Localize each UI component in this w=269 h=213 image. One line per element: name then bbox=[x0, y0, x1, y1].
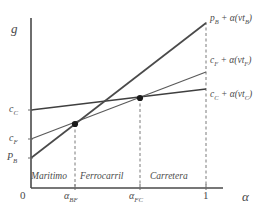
transport-mode-cost-chart: g α cC cF PB 0 αBF αFC 1 Maritimo Ferroc… bbox=[0, 0, 269, 213]
y-tick-label-cc: cC bbox=[9, 104, 18, 117]
x-tick-label-zero: 0 bbox=[20, 190, 26, 201]
x-tick-label-one: 1 bbox=[203, 190, 209, 201]
series-label-cf: cF + α(vtF) bbox=[210, 56, 251, 67]
series-line-pb bbox=[31, 23, 206, 158]
region-label-carretera: Carretera bbox=[150, 172, 188, 182]
region-label-ferrocarril: Ferrocarril bbox=[80, 172, 123, 182]
y-axis-label: g bbox=[11, 22, 18, 35]
x-tick-label-alpha-bf: αBF bbox=[64, 191, 78, 204]
series-label-pb: pB + α(vtB) bbox=[210, 14, 252, 25]
y-tick-label-cf: cF bbox=[9, 133, 18, 146]
intersection-marker-alpha-bf bbox=[72, 121, 78, 127]
region-label-maritimo: Maritimo bbox=[31, 172, 67, 182]
series-label-cc: cC + α(vtC) bbox=[210, 90, 252, 101]
y-tick-label-pb: PB bbox=[7, 152, 17, 165]
x-axis-label: α bbox=[242, 190, 249, 203]
series-line-cc bbox=[31, 89, 206, 110]
intersection-marker-alpha-fc bbox=[137, 95, 143, 101]
series-line-cf bbox=[31, 72, 206, 139]
x-tick-label-alpha-fc: αFC bbox=[129, 191, 143, 204]
